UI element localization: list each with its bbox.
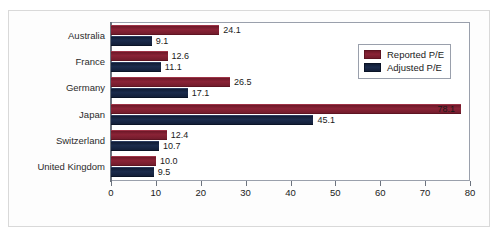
- bar-value-label: 9.5: [158, 167, 171, 177]
- axis-tick: [291, 181, 292, 186]
- axis-tick-label: 20: [195, 187, 206, 198]
- category-label-switzerland: Switzerland: [56, 135, 105, 146]
- bar-france-reported: [111, 51, 168, 61]
- bar-value-label: 78.1: [437, 104, 455, 114]
- value-axis: 01020304050607080: [110, 181, 471, 203]
- bar-value-label: 11.1: [165, 62, 182, 72]
- axis-tick-label: 0: [108, 187, 113, 198]
- bar-france-adjusted: [111, 62, 161, 72]
- bar-germany-reported: [111, 77, 230, 87]
- bar-australia-adjusted: [111, 36, 152, 46]
- axis-tick: [246, 181, 247, 186]
- bar-united-kingdom-reported: [111, 156, 156, 166]
- bar-value-label: 45.1: [317, 115, 335, 125]
- category-label-france: France: [75, 56, 105, 67]
- bar-value-label: 10.7: [163, 141, 181, 151]
- legend-label: Reported P/E: [387, 49, 444, 60]
- bar-japan-adjusted: [111, 115, 313, 125]
- legend-swatch-adjusted: [364, 63, 381, 72]
- category-axis-labels: AustraliaFranceGermanyJapanSwitzerlandUn…: [0, 23, 105, 180]
- bar-value-label: 10.0: [160, 156, 178, 166]
- chart-legend: Reported P/EAdjusted P/E: [358, 44, 451, 79]
- bar-australia-reported: [111, 25, 219, 35]
- category-label-japan: Japan: [79, 109, 105, 120]
- bar-value-label: 24.1: [223, 25, 241, 35]
- bar-japan-reported: [111, 104, 461, 114]
- legend-swatch-reported: [364, 50, 381, 59]
- axis-tick: [380, 181, 381, 186]
- axis-tick-label: 60: [375, 187, 386, 198]
- axis-tick-label: 50: [330, 187, 341, 198]
- bar-group: 10.09.5: [111, 154, 470, 180]
- axis-tick-label: 70: [420, 187, 431, 198]
- bar-value-label: 26.5: [234, 77, 252, 87]
- category-label-united-kingdom: United Kingdom: [37, 161, 105, 172]
- axis-tick: [470, 181, 471, 186]
- category-label-australia: Australia: [68, 30, 105, 41]
- legend-item: Adjusted P/E: [364, 61, 444, 74]
- bar-value-label: 17.1: [192, 88, 210, 98]
- bar-value-label: 12.6: [172, 51, 190, 61]
- axis-tick: [425, 181, 426, 186]
- bar-value-label: 12.4: [171, 130, 189, 140]
- axis-tick-label: 40: [285, 187, 296, 198]
- bar-group: 78.145.1: [111, 102, 470, 128]
- bar-value-label: 9.1: [156, 36, 169, 46]
- axis-tick: [156, 181, 157, 186]
- bar-group: 12.410.7: [111, 128, 470, 154]
- category-label-germany: Germany: [66, 82, 105, 93]
- bar-group: 26.517.1: [111, 75, 470, 101]
- axis-tick: [335, 181, 336, 186]
- bar-switzerland-reported: [111, 130, 167, 140]
- legend-item: Reported P/E: [364, 48, 444, 61]
- axis-tick-label: 30: [240, 187, 251, 198]
- bar-germany-adjusted: [111, 88, 188, 98]
- legend-label: Adjusted P/E: [387, 62, 442, 73]
- chart-figure: AustraliaFranceGermanyJapanSwitzerlandUn…: [0, 0, 501, 237]
- axis-tick: [201, 181, 202, 186]
- bar-united-kingdom-adjusted: [111, 167, 154, 177]
- axis-tick-label: 10: [151, 187, 162, 198]
- axis-tick: [111, 181, 112, 186]
- axis-tick-label: 80: [465, 187, 476, 198]
- bar-switzerland-adjusted: [111, 141, 159, 151]
